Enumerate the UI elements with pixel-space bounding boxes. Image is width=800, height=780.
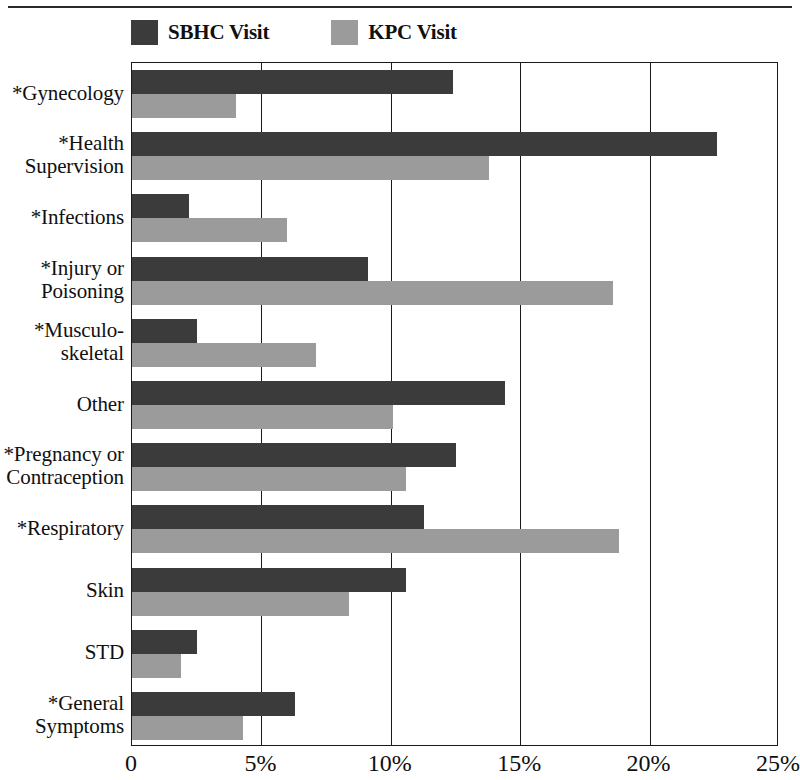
bar-sbhc	[132, 132, 717, 156]
bar-row	[132, 692, 777, 740]
bar-kpc	[132, 343, 316, 367]
x-axis-tick-label: 5%	[244, 748, 276, 778]
bar-row	[132, 381, 777, 429]
x-axis-labels: 05%10%15%20%25%	[0, 748, 799, 780]
legend-swatch-kpc	[331, 20, 358, 45]
legend-label-kpc: KPC Visit	[368, 22, 457, 43]
x-axis-tick-label: 10%	[368, 748, 412, 778]
bar-sbhc	[132, 443, 456, 467]
bar-row	[132, 257, 777, 305]
bar-sbhc	[132, 381, 505, 405]
y-axis-label: STD	[0, 641, 124, 664]
bar-sbhc	[132, 505, 424, 529]
bar-kpc	[132, 94, 236, 118]
x-axis-tick-label: 15%	[497, 748, 541, 778]
bar-row	[132, 443, 777, 491]
bar-row	[132, 568, 777, 616]
legend-entry-kpc: KPC Visit	[331, 20, 457, 45]
y-axis-label: *Injury or Poisoning	[0, 257, 124, 303]
x-axis-tick-label: 25%	[756, 748, 800, 778]
x-axis-tick-label: 0	[125, 748, 137, 778]
bar-kpc	[132, 156, 489, 180]
y-axis-label: *Infections	[0, 206, 124, 229]
bar-kpc	[132, 405, 393, 429]
chart-legend: SBHC VisitKPC Visit	[131, 17, 457, 47]
legend-label-sbhc: SBHC Visit	[168, 22, 269, 43]
plot-area	[131, 62, 778, 746]
bar-kpc	[132, 654, 181, 678]
bar-row	[132, 319, 777, 367]
bar-row	[132, 132, 777, 180]
bar-sbhc	[132, 319, 197, 343]
top-divider-rule	[8, 6, 792, 8]
bar-sbhc	[132, 70, 453, 94]
bar-rows	[132, 63, 777, 745]
bar-sbhc	[132, 568, 406, 592]
y-axis-label: *General Symptoms	[0, 692, 124, 738]
bar-row	[132, 70, 777, 118]
bar-sbhc	[132, 630, 197, 654]
bar-kpc	[132, 281, 613, 305]
y-axis-labels: *Gynecology*Health Supervision*Infection…	[0, 62, 124, 746]
bar-kpc	[132, 218, 287, 242]
y-axis-label: *Gynecology	[0, 82, 124, 105]
bar-row	[132, 194, 777, 242]
legend-swatch-sbhc	[131, 20, 158, 45]
bar-kpc	[132, 716, 243, 740]
bar-kpc	[132, 467, 406, 491]
x-axis-tick-label: 20%	[627, 748, 671, 778]
y-axis-label: *Health Supervision	[0, 132, 124, 178]
bar-kpc	[132, 529, 619, 553]
y-axis-label: *Musculo- skeletal	[0, 319, 124, 365]
y-axis-label: *Pregnancy or Contraception	[0, 443, 124, 489]
bar-kpc	[132, 592, 349, 616]
legend-entry-sbhc: SBHC Visit	[131, 20, 269, 45]
y-axis-label: Skin	[0, 579, 124, 602]
bar-sbhc	[132, 257, 368, 281]
bar-sbhc	[132, 194, 189, 218]
bar-sbhc	[132, 692, 295, 716]
bar-row	[132, 505, 777, 553]
bar-row	[132, 630, 777, 678]
y-axis-label: Other	[0, 393, 124, 416]
y-axis-label: *Respiratory	[0, 517, 124, 540]
